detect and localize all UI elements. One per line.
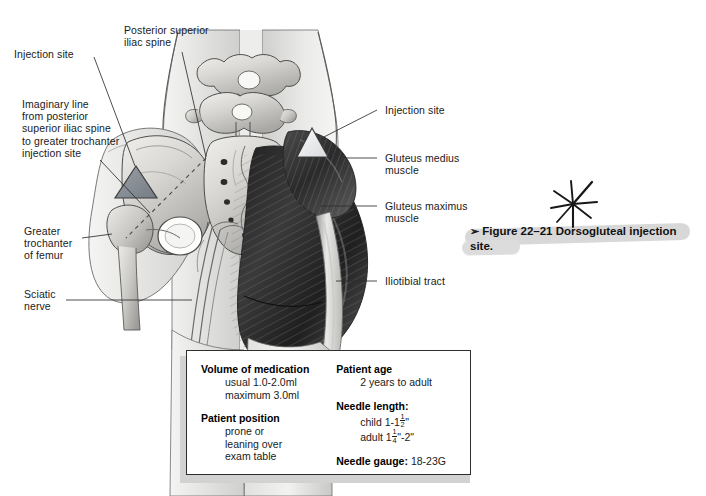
label-imaginary-line: Imaginary line from posterior superior i…	[22, 98, 119, 159]
volume-usual: usual 1.0-2.0ml	[201, 376, 330, 389]
volume-heading: Volume of medication	[201, 363, 330, 376]
label-sciatic-nerve: Sciatic nerve	[24, 288, 56, 312]
figure-caption: ➢ Figure 22–21 Dorsogluteal injection si…	[470, 224, 692, 254]
patient-position-heading: Patient position	[201, 412, 330, 425]
caption-arrow-icon: ➢	[470, 225, 479, 237]
needle-gauge-value: 18-23G	[411, 455, 446, 467]
spacer-left	[201, 401, 330, 412]
spacer-right-1	[336, 389, 470, 400]
needle-length-child: child 1-112"	[336, 413, 470, 429]
label-greater-trochanter-of-femur: Greater trochanter of femur	[24, 225, 72, 262]
caption-line-2: site.	[470, 240, 493, 252]
injection-parameters-box: Volume of medication usual 1.0-2.0ml max…	[186, 350, 471, 475]
needle-child-prefix: child 1-1	[360, 416, 400, 428]
label-iliotibial-tract: Iliotibial tract	[385, 275, 445, 287]
info-column-left: Volume of medication usual 1.0-2.0ml max…	[187, 363, 330, 474]
handdrawn-asterisk-icon	[545, 178, 601, 230]
label-gluteus-medius-muscle: Gluteus medius muscle	[385, 152, 459, 176]
label-gluteus-maximus-muscle: Gluteus maximus muscle	[385, 200, 468, 224]
patient-age-heading: Patient age	[336, 363, 470, 376]
patient-position-line-1: prone or	[201, 425, 330, 438]
figure-page: Injection site Posterior superior iliac …	[0, 0, 706, 496]
needle-length-heading: Needle length:	[336, 400, 470, 413]
needle-child-suffix: "	[405, 416, 409, 428]
needle-gauge-row: Needle gauge: 18-23G	[336, 455, 470, 468]
label-injection-site-left: Injection site	[14, 48, 74, 60]
info-column-right: Patient age 2 years to adult Needle leng…	[330, 363, 470, 474]
caption-line-1: Figure 22–21 Dorsogluteal injection	[482, 225, 676, 237]
patient-position-line-2: leaning over	[201, 438, 330, 451]
needle-adult-prefix: adult 1	[360, 432, 392, 444]
needle-length-adult: adult 114"-2"	[336, 428, 470, 444]
spacer-right-2	[336, 444, 470, 455]
patient-age-value: 2 years to adult	[336, 376, 470, 389]
label-injection-site-right: Injection site	[385, 104, 445, 116]
needle-gauge-heading: Needle gauge:	[336, 455, 408, 467]
patient-position-line-3: exam table	[201, 450, 330, 463]
volume-maximum: maximum 3.0ml	[201, 389, 330, 402]
needle-adult-suffix: "-2"	[397, 432, 414, 444]
label-posterior-superior-iliac-spine: Posterior superior iliac spine	[124, 24, 209, 48]
